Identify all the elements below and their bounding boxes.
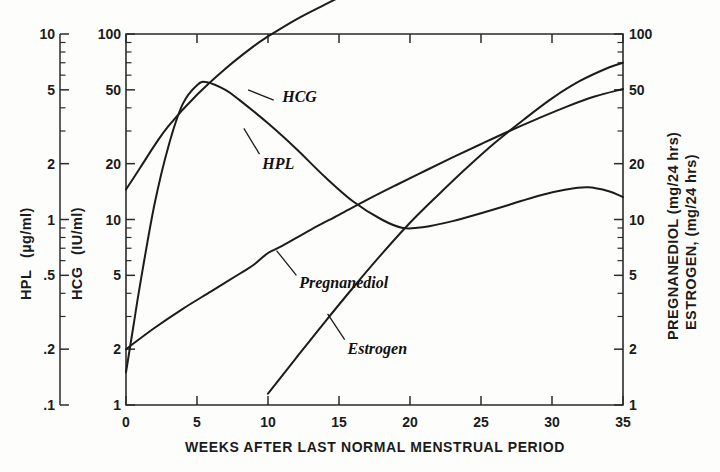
x-tick-label: 10 (260, 414, 276, 430)
x-tick-label: 20 (402, 414, 418, 430)
y-tick-label: .5 (43, 267, 55, 283)
y-tick-label: 50 (629, 82, 645, 98)
y-tick-label: 1 (113, 397, 121, 413)
chart-background (0, 0, 720, 472)
y-tick-label: .1 (43, 397, 55, 413)
x-tick-label: 0 (122, 414, 130, 430)
hpl-axis-title-line2: (µg/ml) (18, 207, 34, 258)
hormone-levels-chart: 10521.5.2.1 HPL (µg/ml) 100502010521 HCG… (0, 0, 720, 472)
hcg-axis-title-line1: HCG (69, 267, 85, 300)
x-tick-label: 30 (544, 414, 560, 430)
y-tick-label: 10 (39, 26, 55, 42)
y-tick-label: 2 (629, 341, 637, 357)
x-tick-label: 35 (615, 414, 631, 430)
figure-root: 10521.5.2.1 HPL (µg/ml) 100502010521 HCG… (0, 0, 720, 472)
y-tick-label: 5 (113, 267, 121, 283)
y-tick-label: 1 (47, 212, 55, 228)
y-tick-label: 1 (629, 397, 637, 413)
y-tick-label: 20 (629, 156, 645, 172)
y-tick-label: 5 (629, 267, 637, 283)
y-tick-label: 5 (47, 82, 55, 98)
x-tick-label: 15 (331, 414, 347, 430)
y-tick-label: 100 (629, 26, 653, 42)
y-tick-label: 2 (47, 156, 55, 172)
y-tick-label: 10 (629, 212, 645, 228)
series-label-pregnanediol: Pregnanediol (298, 274, 388, 292)
right-axis-title-line2: ESTROGEN, (mg/24 hrs) (683, 154, 699, 330)
hpl-axis-title-line1: HPL (18, 270, 34, 300)
y-tick-label: 50 (105, 82, 121, 98)
right-axis-title-line1: PREGNANEDIOL (mg/24 hrs) (665, 132, 681, 340)
series-label-hcg: HCG (281, 88, 317, 105)
x-tick-label: 5 (193, 414, 201, 430)
x-axis-title: WEEKS AFTER LAST NORMAL MENSTRUAL PERIOD (185, 439, 565, 455)
y-tick-label: 10 (105, 212, 121, 228)
y-tick-label: 100 (98, 26, 122, 42)
series-label-hpl: HPL (261, 155, 294, 172)
y-tick-label: 2 (113, 341, 121, 357)
y-tick-label: 20 (105, 156, 121, 172)
hcg-axis-title-line2: (IU/ml) (69, 207, 85, 255)
series-label-estrogen: Estrogen (347, 340, 408, 358)
x-tick-label: 25 (473, 414, 489, 430)
y-tick-label: .2 (43, 341, 55, 357)
